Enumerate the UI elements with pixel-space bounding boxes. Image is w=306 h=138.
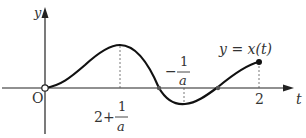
zero-point-1 bbox=[157, 86, 161, 90]
trough-label-den: a bbox=[179, 73, 187, 88]
graph-figure: y t O y = x(t) 2 + 1 a − 1 a 2 bbox=[0, 0, 306, 138]
peak-label-whole: 2 bbox=[94, 109, 103, 125]
zero-point-2 bbox=[216, 86, 220, 90]
curve-label-rhs: x(t) bbox=[248, 41, 272, 57]
origin-label: O bbox=[32, 90, 43, 106]
x-axis-label: t bbox=[296, 91, 302, 107]
x-axis-arrow-icon bbox=[283, 85, 294, 92]
trough-label-num: 1 bbox=[180, 54, 188, 69]
curve-label-eq: = bbox=[231, 41, 243, 57]
trough-label-minus: − bbox=[165, 63, 177, 79]
curve-label: y = x(t) bbox=[218, 41, 272, 57]
y-axis-label: y bbox=[33, 5, 42, 20]
peak-label-den: a bbox=[117, 119, 125, 134]
end-filled-point bbox=[256, 59, 262, 65]
graph-svg: y t O y = x(t) 2 + 1 a − 1 a 2 bbox=[0, 0, 306, 138]
y-axis-arrow-icon bbox=[42, 7, 49, 18]
peak-label-plus: + bbox=[103, 109, 115, 125]
end-label: 2 bbox=[255, 91, 264, 107]
peak-label-num: 1 bbox=[118, 99, 126, 114]
curve-label-lhs: y bbox=[218, 41, 228, 57]
